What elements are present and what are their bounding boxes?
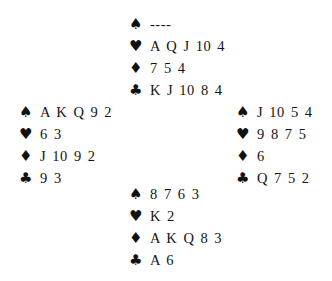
north-hearts-cards: A Q J 10 4 — [150, 35, 225, 57]
heart-icon: ♥ — [129, 35, 143, 57]
west-diamonds-cards: J 10 9 2 — [40, 145, 96, 167]
spade-icon: ♠ — [129, 13, 143, 35]
east-hearts-line: ♥ 9 8 7 5 — [236, 123, 313, 145]
heart-icon: ♥ — [129, 205, 143, 227]
south-spades-line: ♠ 8 7 6 3 — [129, 183, 222, 205]
heart-icon: ♥ — [236, 123, 250, 145]
diamond-icon: ♦ — [236, 145, 250, 167]
east-clubs-cards: Q 7 5 2 — [257, 167, 310, 189]
south-hearts-line: ♥ K 2 — [129, 205, 222, 227]
south-clubs-cards: A 6 — [150, 249, 174, 271]
south-clubs-line: ♣ A 6 — [129, 249, 222, 271]
west-spades-cards: A K Q 9 2 — [40, 101, 112, 123]
spade-icon: ♠ — [129, 183, 143, 205]
north-diamonds-cards: 7 5 4 — [150, 57, 186, 79]
east-spades-line: ♠ J 10 5 4 — [236, 101, 313, 123]
west-hearts-line: ♥ 6 3 — [19, 123, 112, 145]
east-hand: ♠ J 10 5 4 ♥ 9 8 7 5 ♦ 6 ♣ Q 7 5 2 — [236, 101, 313, 189]
south-hearts-cards: K 2 — [150, 205, 175, 227]
spade-icon: ♠ — [236, 101, 250, 123]
diamond-icon: ♦ — [19, 145, 33, 167]
heart-icon: ♥ — [19, 123, 33, 145]
west-hearts-cards: 6 3 — [40, 123, 62, 145]
west-spades-line: ♠ A K Q 9 2 — [19, 101, 112, 123]
north-spades-cards: ---- — [150, 13, 171, 35]
west-clubs-cards: 9 3 — [40, 167, 62, 189]
east-clubs-line: ♣ Q 7 5 2 — [236, 167, 313, 189]
club-icon: ♣ — [129, 79, 143, 101]
west-diamonds-line: ♦ J 10 9 2 — [19, 145, 112, 167]
north-hand: ♠ ---- ♥ A Q J 10 4 ♦ 7 5 4 ♣ K J 10 8 4 — [129, 13, 225, 101]
south-diamonds-line: ♦ A K Q 8 3 — [129, 227, 222, 249]
south-spades-cards: 8 7 6 3 — [150, 183, 199, 205]
north-hearts-line: ♥ A Q J 10 4 — [129, 35, 225, 57]
south-diamonds-cards: A K Q 8 3 — [150, 227, 222, 249]
club-icon: ♣ — [19, 167, 33, 189]
diamond-icon: ♦ — [129, 57, 143, 79]
club-icon: ♣ — [129, 249, 143, 271]
east-spades-cards: J 10 5 4 — [257, 101, 313, 123]
west-hand: ♠ A K Q 9 2 ♥ 6 3 ♦ J 10 9 2 ♣ 9 3 — [19, 101, 112, 189]
north-spades-line: ♠ ---- — [129, 13, 225, 35]
north-diamonds-line: ♦ 7 5 4 — [129, 57, 225, 79]
north-clubs-cards: K J 10 8 4 — [150, 79, 223, 101]
south-hand: ♠ 8 7 6 3 ♥ K 2 ♦ A K Q 8 3 ♣ A 6 — [129, 183, 222, 271]
diamond-icon: ♦ — [129, 227, 143, 249]
east-diamonds-line: ♦ 6 — [236, 145, 313, 167]
east-hearts-cards: 9 8 7 5 — [257, 123, 306, 145]
spade-icon: ♠ — [19, 101, 33, 123]
north-clubs-line: ♣ K J 10 8 4 — [129, 79, 225, 101]
club-icon: ♣ — [236, 167, 250, 189]
west-clubs-line: ♣ 9 3 — [19, 167, 112, 189]
bridge-deal-diagram: ♠ ---- ♥ A Q J 10 4 ♦ 7 5 4 ♣ K J 10 8 4… — [0, 0, 332, 281]
east-diamonds-cards: 6 — [257, 145, 265, 167]
